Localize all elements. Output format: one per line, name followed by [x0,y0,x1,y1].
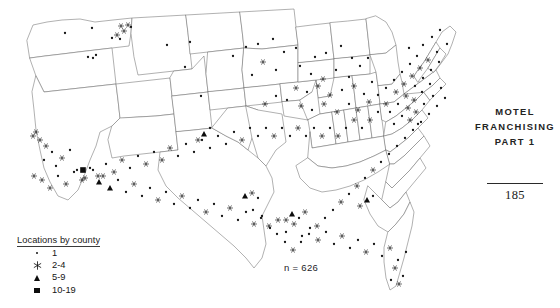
map-marker-dot [431,36,433,38]
map-marker-dot [129,167,131,169]
legend-item-label: 2-4 [52,261,65,270]
legend-item-label: 5-9 [52,273,65,282]
map-marker-dot [237,219,239,221]
map-marker-star [143,162,148,167]
map-marker-dot [404,137,406,139]
map-marker-dot [55,165,57,167]
legend-title: Locations by county [17,235,100,247]
map-marker-dot [257,43,259,45]
map-marker-dot [43,159,45,161]
map-marker-dot [92,57,94,59]
map-marker-star [338,200,343,205]
map-marker-star [283,218,288,223]
running-head: MOTEL FRANCHISING PART 1 [470,104,560,149]
map-marker-dot [173,203,175,205]
map-marker-dot [91,27,93,29]
map-marker-dot [185,143,187,145]
map-marker-dot [276,233,278,235]
map-marker-star [290,248,295,253]
map-marker-star [95,174,100,179]
map-marker-dot [380,161,382,163]
map-marker-dot [428,113,430,115]
map-marker-star [409,74,414,79]
map-marker-dot [306,91,308,93]
map-marker-dot [414,85,416,87]
map-marker-dot [201,139,203,141]
map-marker-dot [209,127,211,129]
map-marker-dot [422,44,424,46]
map-marker-tri [289,211,295,217]
map-marker-star [100,174,105,179]
map-marker-dot [281,127,283,129]
map-marker-dot [345,127,347,129]
map-marker-dot [324,217,326,219]
map-marker-star [339,234,344,239]
map-marker-dot [284,241,286,243]
sample-size-label: n = 626 [284,262,318,273]
map-marker-dot [149,187,151,189]
square-icon [29,284,45,296]
map-marker-dot [286,99,288,101]
map-marker-star [47,186,52,191]
map-marker-star [363,250,368,255]
map-marker-star [315,238,320,243]
map-marker-dot [401,71,403,73]
map-marker-dot [390,279,392,281]
map-marker-dot [361,127,363,129]
map-marker-dot [329,127,331,129]
map-marker-dot [417,123,419,125]
map-marker-dot [397,259,399,261]
map-marker-dot [436,105,438,107]
map-marker-dot [125,191,127,193]
map-marker-dot [393,79,395,81]
map-marker-dot [377,94,379,96]
map-marker-dot [76,169,78,171]
map-marker-dot [332,209,334,211]
map-marker-dot [217,135,219,137]
map-marker-dot [430,69,432,71]
map-marker-dot [381,255,383,257]
map-marker-dot [252,209,254,211]
legend-item-label: 10-19 [52,286,76,295]
map-marker-star [39,178,44,183]
map-marker-dot [193,151,195,153]
map-marker-dot [73,171,75,173]
map-marker-dot [300,241,302,243]
map-marker-dot [340,45,342,47]
page-furniture: MOTEL FRANCHISING PART 1 185 [470,0,560,308]
map-marker-dot [313,127,315,129]
map-marker-dot [233,131,235,133]
map-marker-dot [153,151,155,153]
map-marker-dot [416,55,418,57]
map-marker-dot [363,93,365,95]
map-marker-dot [189,207,191,209]
map-marker-dot [200,95,202,97]
map-marker-tri [96,179,102,185]
map-marker-dot [184,66,186,68]
map-marker-dot [351,57,353,59]
map-marker-star [314,224,319,229]
map-marker-dot [349,247,351,249]
us-dot-map: n = 626 Locations by county 12-45-910-19 [0,0,470,308]
map-marker-dot [422,77,424,79]
running-head-line-2: FRANCHISING [470,119,560,134]
map-marker-dot [348,193,350,195]
map-marker-dot [213,203,215,205]
map-marker-dot [444,97,446,99]
map-marker-dot [423,103,425,105]
map-marker-dot [310,73,312,75]
map-marker-dot [325,231,327,233]
legend-item-label: 1 [52,249,57,258]
map-marker-dot [261,215,263,217]
map-marker-dot [260,217,262,219]
map-marker-dot [436,51,438,53]
map-marker-dot [209,147,211,149]
map-marker-dot [396,145,398,147]
map-marker-star [302,210,307,215]
map-marker-dot [221,215,223,217]
map-marker-dot [141,195,143,197]
map-marker-dot [295,47,297,49]
map-marker-dot [373,243,375,245]
map-marker-dot [69,149,71,151]
map-marker-star [357,204,362,209]
